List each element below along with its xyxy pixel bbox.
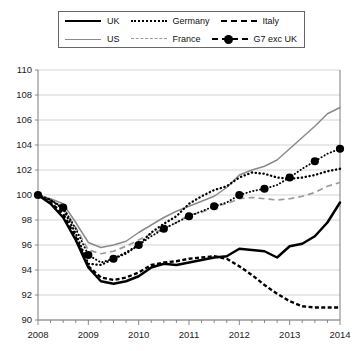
chart-screenshot: UKGermanyItalyUSFranceG7 exc UK 90929496… [0,0,354,351]
legend-swatch-it-icon [219,15,259,27]
legend-item-france[interactable]: France [129,33,210,45]
x-tick-label: 2010 [128,329,149,340]
y-tick-label: 108 [16,89,32,100]
chart-svg: 9092949698100102104106108110200820092010… [0,52,354,351]
x-tick-label: 2011 [179,329,199,340]
legend-label: G7 exc UK [254,34,298,44]
series-marker-g7 [311,157,319,165]
legend-swatch-us-icon [63,33,103,45]
series-marker-g7 [286,173,294,181]
legend-label: UK [107,16,120,26]
x-tick-label: 2014 [329,329,350,340]
series-line-italy [38,195,340,308]
legend-item-germany[interactable]: Germany [129,15,219,27]
series-marker-g7 [135,241,143,249]
y-tick-label: 96 [21,239,32,250]
chart-plot-area: 9092949698100102104106108110200820092010… [0,52,354,351]
legend-label: Germany [173,16,210,26]
legend-swatch-fr-icon [129,33,169,45]
legend-swatch-uk-icon [63,15,103,27]
series-marker-g7 [84,251,92,259]
series-marker-g7 [235,191,243,199]
y-tick-label: 98 [21,214,32,225]
legend-row: UKGermanyItaly [59,12,304,30]
legend-swatch-g7-icon [210,33,250,45]
series-marker-g7 [210,202,218,210]
series-marker-g7 [160,225,168,233]
x-tick-label: 2012 [229,329,250,340]
x-tick-label: 2009 [78,329,99,340]
legend-item-italy[interactable]: Italy [219,15,284,27]
y-tick-label: 90 [21,314,32,325]
legend-item-us[interactable]: US [63,33,129,45]
legend-item-uk[interactable]: UK [63,15,129,27]
y-tick-label: 106 [16,114,32,125]
x-tick-label: 2013 [279,329,300,340]
series-marker-g7 [185,212,193,220]
legend-swatch-de-icon [129,15,169,27]
chart-legend: UKGermanyItalyUSFranceG7 exc UK [58,11,305,48]
series-marker-g7 [260,185,268,193]
series-marker-g7 [336,145,344,153]
legend-label: Italy [263,16,280,26]
y-tick-label: 100 [16,189,32,200]
y-tick-label: 110 [17,64,32,75]
legend-item-g7-exc-uk[interactable]: G7 exc UK [210,33,302,45]
series-marker-g7 [59,203,67,211]
y-tick-label: 92 [21,289,32,300]
y-tick-label: 104 [16,139,32,150]
y-tick-label: 102 [16,164,32,175]
legend-label: US [107,34,120,44]
series-marker-g7 [34,191,42,199]
series-marker-g7 [109,255,117,263]
y-tick-label: 94 [21,264,32,275]
legend-label: France [173,34,201,44]
x-tick-label: 2008 [27,329,48,340]
legend-marker-dot-icon [224,35,233,44]
legend-row: USFranceG7 exc UK [59,30,304,48]
